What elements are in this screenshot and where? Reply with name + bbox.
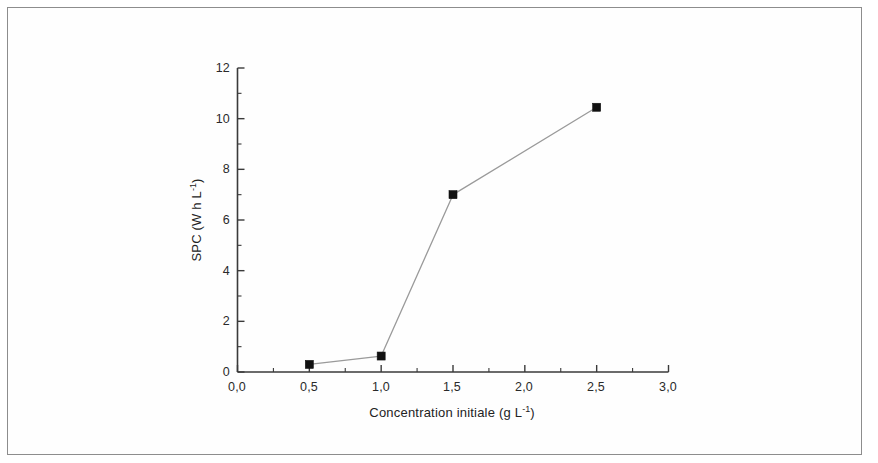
marker-square-2	[449, 191, 457, 199]
x-tick-label-0-5: 0,5	[300, 380, 318, 394]
y-tick-label-10: 10	[200, 112, 230, 126]
data-point-marker[interactable]: 1.5 ; 7	[449, 191, 457, 199]
x-tick-label-1-0: 1,0	[372, 380, 390, 394]
y-axis-title: SPC (W h L-1)	[188, 178, 204, 261]
y-tick-label-2: 2	[200, 314, 230, 328]
y-tick-label-6: 6	[200, 213, 230, 227]
y-axis-title-text: SPC (W h L	[189, 191, 204, 262]
y-tick-label-4: 4	[200, 264, 230, 278]
marker-square-3	[593, 103, 601, 111]
x-tick-label-3-0: 3,0	[659, 380, 677, 394]
x-tick-label-2-0: 2,0	[515, 380, 533, 394]
x-axis-title-text: Concentration initiale (g L	[369, 405, 522, 420]
series-line-spc	[309, 107, 596, 364]
x-axis-title-tail: )	[530, 405, 535, 420]
y-axis-title-tail: )	[189, 178, 204, 183]
y-tick-label-0: 0	[200, 365, 230, 379]
data-point-marker[interactable]: 2.5 ; 10.45	[593, 103, 601, 111]
y-axis-title-exponent: -1	[188, 183, 198, 191]
chart-figure: 0.5 ; 0.31 ; 0.631.5 ; 72.5 ; 10.45 12 1…	[0, 0, 878, 463]
y-tick-label-8: 8	[200, 162, 230, 176]
x-axis-title: Concentration initiale (g L-1)	[369, 404, 534, 420]
data-point-marker[interactable]: 0.5 ; 0.3	[305, 360, 313, 368]
data-point-marker[interactable]: 1 ; 0.63	[377, 352, 385, 360]
x-tick-label-2-5: 2,5	[587, 380, 605, 394]
x-tick-label-0-0: 0,0	[228, 380, 246, 394]
x-tick-label-1-5: 1,5	[443, 380, 461, 394]
marker-square-0	[305, 360, 313, 368]
x-axis-title-exponent: -1	[522, 404, 530, 414]
figure-page: 0.5 ; 0.31 ; 0.631.5 ; 72.5 ; 10.45 12 1…	[0, 0, 878, 463]
marker-square-1	[377, 352, 385, 360]
chart-plot-area: 0.5 ; 0.31 ; 0.631.5 ; 72.5 ; 10.45	[0, 0, 878, 463]
y-tick-label-12: 12	[200, 61, 230, 75]
